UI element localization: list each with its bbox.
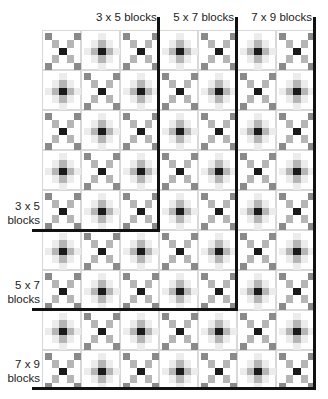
plus-block (237, 110, 276, 150)
top-label-5x7: 5 x 7 blocks (172, 11, 234, 23)
plus-block (81, 270, 120, 310)
x-block (159, 310, 198, 350)
x-block (42, 190, 81, 230)
side-label-5x7-line1: 5 x 7 (4, 278, 40, 292)
x-block (237, 230, 276, 270)
plus-block (276, 230, 315, 270)
plus-block (81, 30, 120, 70)
x-block (159, 150, 198, 190)
boundary-7x9-horizontal (32, 387, 316, 390)
boundary-3x5-horizontal (32, 229, 160, 232)
x-block (42, 110, 81, 150)
plus-block (42, 150, 81, 190)
x-block (276, 270, 315, 310)
plus-block (159, 190, 198, 230)
plus-block (81, 110, 120, 150)
x-block (42, 270, 81, 310)
plus-block (276, 70, 315, 110)
x-block (198, 30, 237, 70)
plus-block (159, 270, 198, 310)
plus-block (81, 190, 120, 230)
plus-block (42, 230, 81, 270)
top-label-3x5: 3 x 5 blocks (96, 11, 156, 23)
side-label-5x7: 5 x 7 blocks (4, 278, 40, 306)
x-block (81, 230, 120, 270)
x-block (81, 150, 120, 190)
x-block (81, 310, 120, 350)
plus-block (120, 310, 159, 350)
plus-block (237, 270, 276, 310)
side-label-3x5-line1: 3 x 5 (4, 199, 40, 213)
x-block (159, 230, 198, 270)
plus-block (42, 70, 81, 110)
x-block (198, 110, 237, 150)
x-block (81, 70, 120, 110)
x-block (198, 350, 237, 390)
plus-block (81, 350, 120, 390)
x-block (198, 270, 237, 310)
x-block (120, 350, 159, 390)
side-label-3x5-line2: blocks (4, 213, 40, 227)
side-label-7x9: 7 x 9 blocks (4, 357, 40, 385)
plus-block (237, 30, 276, 70)
plus-block (237, 350, 276, 390)
x-block (120, 110, 159, 150)
plus-block (159, 350, 198, 390)
plus-block (159, 110, 198, 150)
plus-block (120, 230, 159, 270)
plus-block (42, 310, 81, 350)
x-block (276, 190, 315, 230)
x-block (120, 270, 159, 310)
plus-block (276, 310, 315, 350)
plus-block (198, 150, 237, 190)
plus-block (159, 30, 198, 70)
x-block (237, 150, 276, 190)
plus-block (276, 150, 315, 190)
x-block (120, 30, 159, 70)
x-block (42, 30, 81, 70)
x-block (237, 310, 276, 350)
side-label-7x9-line1: 7 x 9 (4, 357, 40, 371)
x-block (159, 70, 198, 110)
top-label-7x9: 7 x 9 blocks (250, 11, 312, 23)
x-block (276, 110, 315, 150)
plus-block (198, 310, 237, 350)
x-block (198, 190, 237, 230)
side-label-5x7-line2: blocks (4, 292, 40, 306)
plus-block (120, 150, 159, 190)
boundary-5x7-horizontal (32, 308, 238, 311)
side-label-7x9-line2: blocks (4, 371, 40, 385)
boundary-3x5-vertical (157, 17, 160, 232)
side-label-3x5: 3 x 5 blocks (4, 199, 40, 227)
x-block (276, 30, 315, 70)
plus-block (120, 70, 159, 110)
plus-block (237, 190, 276, 230)
x-block (42, 350, 81, 390)
boundary-7x9-vertical (313, 17, 316, 390)
plus-block (198, 230, 237, 270)
plus-block (198, 70, 237, 110)
x-block (120, 190, 159, 230)
boundary-5x7-vertical (235, 17, 238, 311)
x-block (237, 70, 276, 110)
x-block (276, 350, 315, 390)
